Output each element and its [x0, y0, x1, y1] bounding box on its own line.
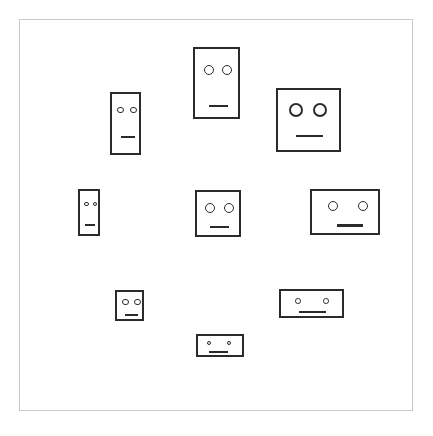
mouth-icon: [210, 226, 229, 228]
left-eye-icon: [204, 65, 214, 75]
left-eye-icon: [84, 202, 89, 207]
left-eye-icon: [122, 299, 128, 305]
right-eye-icon: [93, 202, 98, 207]
right-eye-icon: [224, 203, 234, 213]
left-eye-icon: [295, 298, 301, 304]
left-eye-icon: [328, 201, 338, 211]
right-eye-icon: [358, 201, 368, 211]
right-eye-icon: [130, 107, 136, 113]
face-middle-right: [310, 189, 380, 235]
mouth-icon: [299, 311, 326, 313]
right-eye-icon: [134, 299, 140, 305]
right-eye-icon: [313, 103, 327, 117]
face-bottom-left: [115, 290, 144, 321]
left-eye-icon: [205, 203, 215, 213]
mouth-icon: [125, 314, 138, 316]
left-eye-icon: [117, 107, 123, 113]
mouth-icon: [121, 136, 135, 138]
mouth-icon: [209, 351, 228, 353]
face-middle-left: [78, 189, 100, 236]
mouth-icon: [296, 135, 323, 137]
right-eye-icon: [222, 65, 232, 75]
face-top-left: [110, 92, 141, 155]
face-top-center: [193, 47, 240, 119]
mouth-icon: [209, 105, 228, 107]
face-top-right: [276, 88, 341, 152]
face-middle-center: [195, 190, 241, 237]
right-eye-icon: [323, 298, 329, 304]
mouth-icon: [337, 224, 363, 227]
mouth-icon: [85, 224, 95, 226]
face-bottom-center: [196, 334, 244, 357]
right-eye-icon: [227, 341, 231, 345]
left-eye-icon: [207, 341, 211, 345]
drawing-canvas: [0, 0, 433, 436]
face-bottom-right: [279, 289, 344, 318]
left-eye-icon: [289, 103, 303, 117]
